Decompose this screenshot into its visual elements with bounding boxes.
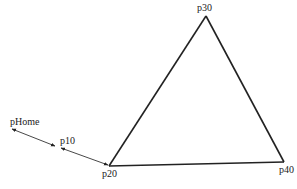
label-p30: p30 bbox=[197, 2, 212, 13]
triangle-path bbox=[109, 16, 284, 166]
label-p40: p40 bbox=[279, 164, 294, 175]
label-phome: pHome bbox=[10, 116, 40, 127]
segment-p30-p40 bbox=[206, 16, 284, 162]
segment-p20-p30 bbox=[109, 16, 206, 166]
segment-phome-p10 bbox=[12, 129, 55, 146]
robot-path-diagram: p30 pHome p10 p20 p40 bbox=[0, 0, 297, 189]
segment-p10-p20 bbox=[61, 148, 108, 165]
segment-p40-p20 bbox=[109, 162, 284, 166]
label-p20: p20 bbox=[102, 168, 117, 179]
label-p10: p10 bbox=[60, 135, 75, 146]
